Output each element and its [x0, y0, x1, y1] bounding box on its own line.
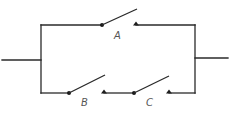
switch-c-label: C: [146, 97, 153, 108]
switch-c-lever: [134, 76, 169, 93]
switch-b-lever: [69, 75, 105, 93]
switch-a-label: A: [113, 30, 121, 41]
switch-b: B: [67, 75, 107, 108]
bottom-branch: B C: [41, 75, 195, 108]
top-branch: A: [41, 9, 195, 41]
circuit-diagram: A B C: [0, 0, 229, 113]
switch-b-label: B: [81, 97, 88, 108]
switch-c: C: [132, 76, 172, 108]
switch-a-lever: [102, 9, 137, 25]
switch-a: A: [100, 9, 139, 41]
